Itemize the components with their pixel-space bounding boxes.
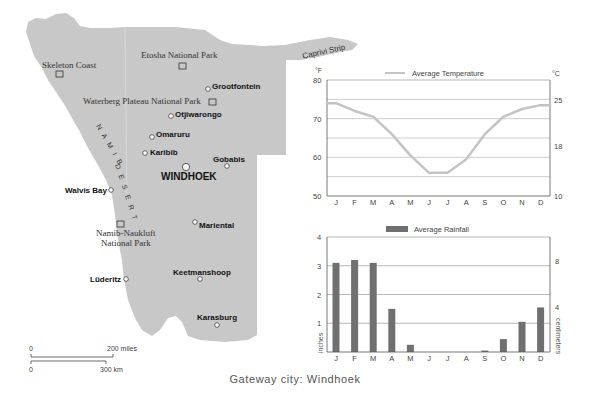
svg-text:M: M: [370, 198, 376, 207]
svg-text:Keetmanshoop: Keetmanshoop: [173, 268, 231, 277]
svg-text:Walvis Bay: Walvis Bay: [65, 186, 107, 195]
rain-left-axis-title: inches: [317, 332, 324, 353]
namibia-map: Caprivi Strip N A M I B D E S E R T Skel…: [26, 13, 358, 373]
svg-text:N: N: [519, 354, 524, 363]
svg-text:2: 2: [317, 291, 321, 300]
capital-marker-icon: [182, 163, 189, 170]
svg-text:Skeleton Coast: Skeleton Coast: [42, 60, 97, 70]
svg-text:3: 3: [317, 262, 321, 271]
rain-legend: Average Rainfall: [386, 225, 469, 234]
svg-text:Average Rainfall: Average Rainfall: [414, 225, 469, 234]
city-omaruru[interactable]: Omaruru: [150, 130, 190, 139]
temp-gridlines: [327, 80, 550, 177]
svg-text:S: S: [482, 198, 487, 207]
svg-text:Karibib: Karibib: [150, 148, 178, 157]
temp-tick-labels: 80706050251810JFMAMJJASOND: [313, 76, 562, 207]
svg-text:4: 4: [555, 303, 559, 312]
svg-text:A: A: [389, 354, 394, 363]
svg-text:Otjiwarongo: Otjiwarongo: [175, 110, 222, 119]
park-waterberg[interactable]: Waterberg Plateau National Park: [83, 96, 216, 106]
canvas: Caprivi Strip N A M I B D E S E R T Skel…: [0, 0, 591, 409]
svg-text:N: N: [519, 198, 524, 207]
svg-text:J: J: [427, 198, 431, 207]
svg-text:A: A: [464, 198, 469, 207]
svg-text:WINDHOEK: WINDHOEK: [161, 171, 217, 182]
svg-text:80: 80: [313, 76, 321, 85]
city-marker-icon: [198, 277, 203, 282]
svg-text:J: J: [334, 198, 338, 207]
svg-text:4: 4: [317, 233, 321, 242]
rain-gridlines: [327, 237, 550, 323]
svg-text:M: M: [407, 354, 413, 363]
svg-text:O: O: [500, 354, 506, 363]
temp-left-unit: °F: [315, 67, 322, 74]
svg-text:A: A: [464, 354, 469, 363]
svg-text:0: 0: [29, 366, 33, 373]
rain-bars: [333, 260, 545, 352]
temp-legend: Average Temperature: [385, 69, 484, 78]
svg-text:National Park: National Park: [101, 238, 151, 248]
svg-text:200 miles: 200 miles: [107, 345, 137, 352]
svg-text:70: 70: [313, 115, 321, 124]
svg-text:J: J: [446, 198, 450, 207]
svg-text:Average Temperature: Average Temperature: [412, 69, 484, 78]
chart-caption: Gateway city: Windhoek: [130, 373, 460, 385]
city-walvis-bay[interactable]: Walvis Bay: [65, 186, 113, 195]
svg-text:50: 50: [313, 192, 321, 201]
city-marker-icon: [109, 188, 114, 193]
city-marker-icon: [215, 323, 220, 328]
rain-right-axis-title: centimeters: [555, 318, 562, 355]
svg-text:J: J: [334, 354, 338, 363]
svg-text:25: 25: [554, 96, 562, 105]
svg-text:O: O: [500, 198, 506, 207]
city-marker-icon: [124, 277, 129, 282]
city-luderitz[interactable]: Lüderitz: [90, 275, 128, 284]
rainfall-chart: Average Rainfall 432184JFMAMJJASOND inch…: [317, 225, 562, 363]
svg-text:18: 18: [554, 142, 562, 151]
city-marker-icon: [150, 135, 155, 140]
temperature-chart: °F °C Average Temperature 80706050251810…: [313, 67, 562, 207]
map-scale-bar: 0 200 miles 0 300 km: [29, 345, 137, 373]
svg-text:Mariental: Mariental: [199, 221, 234, 230]
temp-right-unit: °C: [552, 70, 560, 77]
svg-text:F: F: [352, 354, 357, 363]
svg-text:J: J: [427, 354, 431, 363]
svg-text:8: 8: [555, 257, 559, 266]
city-marker-icon: [169, 114, 174, 119]
svg-text:M: M: [370, 354, 376, 363]
svg-text:Waterberg Plateau National Par: Waterberg Plateau National Park: [83, 96, 201, 106]
city-marker-icon: [193, 220, 198, 225]
svg-text:D: D: [538, 354, 544, 363]
svg-text:Karasburg: Karasburg: [197, 313, 237, 322]
svg-text:J: J: [446, 354, 450, 363]
svg-text:Lüderitz: Lüderitz: [90, 275, 121, 284]
city-marker-icon: [225, 164, 230, 169]
svg-text:Gobabis: Gobabis: [213, 155, 246, 164]
svg-text:Omaruru: Omaruru: [156, 130, 190, 139]
city-grootfontein[interactable]: Grootfontein: [206, 82, 261, 91]
svg-text:60: 60: [313, 153, 321, 162]
city-otjiwarongo[interactable]: Otjiwarongo: [169, 110, 222, 119]
svg-text:10: 10: [554, 192, 562, 201]
svg-text:0: 0: [29, 345, 33, 352]
svg-text:Etosha National Park: Etosha National Park: [141, 50, 218, 60]
city-mariental[interactable]: Mariental: [193, 220, 234, 230]
svg-text:300 km: 300 km: [100, 366, 123, 373]
svg-text:D: D: [538, 198, 544, 207]
svg-text:1: 1: [317, 319, 321, 328]
city-marker-icon: [143, 151, 148, 156]
svg-text:Namib-Naukluft: Namib-Naukluft: [96, 228, 156, 238]
svg-text:S: S: [482, 354, 487, 363]
svg-text:M: M: [407, 198, 413, 207]
svg-text:A: A: [389, 198, 394, 207]
infographic: Caprivi Strip N A M I B D E S E R T Skel…: [0, 0, 591, 409]
svg-text:Grootfontein: Grootfontein: [212, 82, 261, 91]
city-marker-icon: [206, 87, 211, 92]
svg-text:F: F: [352, 198, 357, 207]
